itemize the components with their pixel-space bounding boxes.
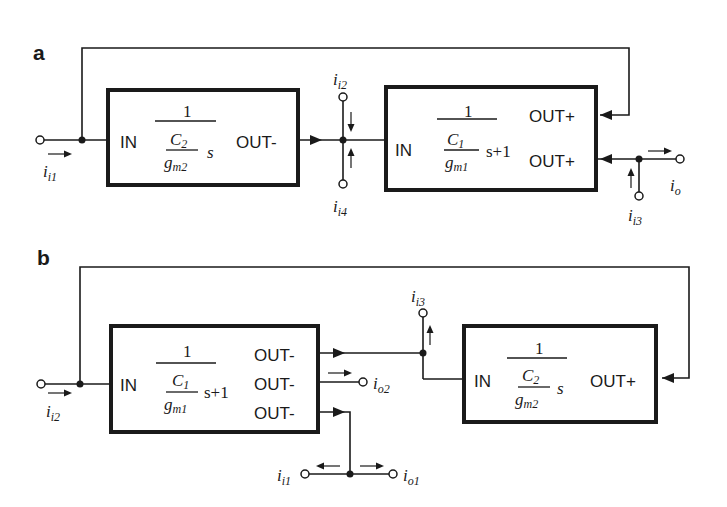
arrowhead-out-minus-3 [333, 407, 345, 417]
terminal-io1 [389, 470, 397, 478]
label-ii2: ii2 [333, 70, 347, 92]
s-plus-one: s+1 [486, 142, 511, 161]
out3-wire [320, 412, 350, 474]
panel-a: a ii1 IN 1 C2 gm2 s OUT- ii2 ii4 [33, 41, 684, 228]
junction-dot [79, 137, 86, 144]
arrowhead-out-plus-2 [600, 154, 612, 164]
label-io2: io2 [373, 374, 390, 396]
numerator: 1 [183, 342, 192, 361]
terminal-ii2 [339, 93, 347, 101]
block-lowpass-a [386, 87, 596, 190]
terminal-ii1 [301, 470, 309, 478]
port-out-minus-1: OUT- [254, 346, 295, 365]
label-io1: io1 [403, 466, 420, 488]
s-term: s [557, 379, 564, 398]
current-arrowhead [344, 370, 352, 377]
arrowhead-out-minus-1 [333, 348, 345, 358]
label-ii4: ii4 [333, 197, 347, 219]
panel-a-label: a [33, 41, 45, 64]
terminal-ii3 [635, 192, 643, 200]
port-in: IN [120, 376, 137, 395]
label-ii3: ii3 [411, 287, 425, 309]
current-arrowhead [64, 390, 72, 397]
label-ii1: ii1 [43, 162, 57, 184]
terminal-ii2 [37, 380, 45, 388]
port-out-plus-1: OUT+ [529, 107, 575, 126]
port-out-minus-3: OUT- [254, 404, 295, 423]
port-out-minus-2: OUT- [254, 375, 295, 394]
junction-dot [347, 471, 354, 478]
label-ii2: ii2 [46, 402, 60, 424]
s-term: s [207, 143, 214, 162]
terminal-ii1 [36, 136, 44, 144]
arrowhead-out-plus-1 [600, 110, 612, 120]
arrowhead-out-minus [310, 135, 322, 145]
junction-dot [77, 381, 84, 388]
port-out-minus: OUT- [236, 133, 277, 152]
numerator: 1 [183, 102, 192, 121]
current-arrowhead [348, 124, 355, 132]
current-arrowhead [628, 168, 635, 176]
current-arrowhead [427, 325, 434, 333]
port-out-plus-2: OUT+ [529, 152, 575, 171]
current-arrowhead [348, 148, 355, 156]
port-out-plus: OUT+ [590, 372, 636, 391]
port-in: IN [395, 141, 412, 160]
label-ii1: ii1 [277, 466, 291, 488]
port-in: IN [120, 133, 137, 152]
junction-dot [340, 137, 347, 144]
arrowhead-out-plus [662, 373, 674, 383]
numerator: 1 [535, 339, 544, 358]
current-arrowhead [64, 151, 72, 158]
numerator: 1 [464, 102, 473, 121]
terminal-io2 [359, 378, 367, 386]
current-arrowhead [664, 148, 672, 155]
panel-b-label: b [37, 246, 50, 269]
current-arrowhead [316, 463, 324, 470]
s-plus-one: s+1 [204, 383, 229, 402]
terminal-ii3 [419, 309, 427, 317]
terminal-io [676, 155, 684, 163]
terminal-ii4 [339, 180, 347, 188]
current-arrowhead [376, 463, 384, 470]
label-io: io [670, 176, 681, 198]
label-ii3: ii3 [628, 206, 642, 228]
panel-b: b ii2 IN 1 C1 gm1 s+1 OUT- OUT- OUT- ii3 [37, 246, 689, 488]
port-in: IN [474, 372, 491, 391]
circuit-diagram: a ii1 IN 1 C2 gm2 s OUT- ii2 ii4 [0, 0, 727, 507]
